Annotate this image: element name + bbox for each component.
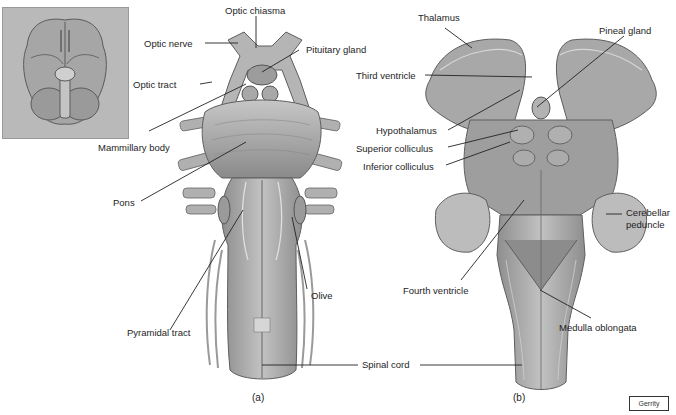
label-cerebellar-peduncle-2: peduncle — [626, 219, 665, 230]
label-pineal-gland: Pineal gland — [599, 25, 651, 36]
label-mammillary-body: Mammillary body — [98, 142, 170, 153]
label-pons: Pons — [113, 197, 135, 208]
label-optic-nerve: Optic nerve — [144, 38, 193, 49]
label-superior-colliculus: Superior colliculus — [356, 143, 433, 154]
artist-credit-box: Gerrity — [629, 396, 669, 411]
label-optic-tract: Optic tract — [133, 79, 176, 90]
panel-a-caption: (a) — [252, 392, 264, 403]
label-medulla-oblongata: Medulla oblongata — [559, 322, 637, 333]
brainstem-figure: Optic chiasma Optic nerve Pituitary glan… — [0, 0, 676, 415]
panel-b-caption: (b) — [513, 392, 525, 403]
label-cerebellar-peduncle-1: Cerebellar — [626, 207, 670, 218]
label-spinal-cord: Spinal cord — [362, 359, 410, 370]
label-olive: Olive — [311, 290, 333, 301]
label-third-ventricle: Third ventricle — [356, 70, 416, 81]
label-fourth-ventricle: Fourth ventricle — [403, 285, 468, 296]
label-pyramidal-tract: Pyramidal tract — [127, 327, 190, 338]
panel-b-posterior-brainstem — [426, 39, 657, 390]
brainstem-illustration — [0, 0, 676, 415]
label-optic-chiasma: Optic chiasma — [225, 5, 285, 16]
label-thalamus: Thalamus — [418, 12, 460, 23]
label-inferior-colliculus: Inferior colliculus — [363, 161, 434, 172]
label-hypothalamus: Hypothalamus — [376, 125, 437, 136]
label-pituitary-gland: Pituitary gland — [306, 44, 366, 55]
